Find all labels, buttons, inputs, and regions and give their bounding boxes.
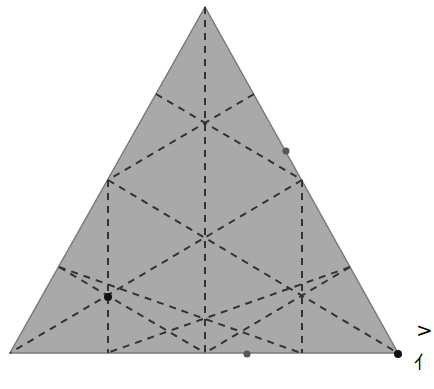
scribble-mark: ⺅ [414,348,432,374]
point-black-corner [394,350,402,358]
point-gray-bottom-edge [244,351,251,358]
chevron-mark: > [416,318,433,342]
triangle-diagram [0,0,434,389]
point-gray-right-edge [283,148,290,155]
point-black-left [104,293,112,301]
